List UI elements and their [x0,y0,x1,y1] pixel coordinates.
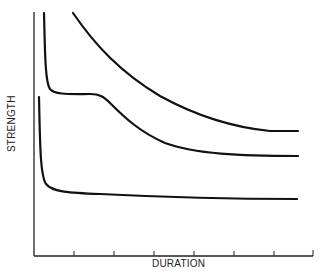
y-axis-label: STRENGTH [6,95,17,152]
strength-duration-chart [0,0,322,277]
x-axis-ticks [74,250,313,256]
middle-curve [44,13,298,156]
upper-curve [73,13,298,131]
x-axis-label: DURATION [152,258,205,269]
lower-curve [39,97,297,199]
